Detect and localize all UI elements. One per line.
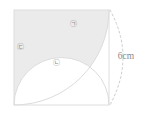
geometry-figure: ㉠ ㉡ ㉢ 6cm [0, 0, 144, 114]
side-dimension-label: 6cm [118, 52, 134, 62]
